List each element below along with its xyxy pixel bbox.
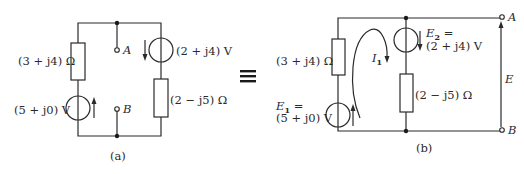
terminal-a — [500, 15, 505, 20]
caption-a: (a) — [110, 149, 126, 163]
loop-current-label: I1 — [371, 51, 382, 67]
right-impedance-label: (2 − j5) Ω — [415, 88, 472, 102]
resistor-right-a — [154, 79, 168, 117]
left-impedance-label: (3 + j4) Ω — [276, 54, 333, 68]
caption-b: (b) — [416, 141, 432, 155]
voltage-source-e2 — [394, 28, 418, 52]
junction-dot — [115, 21, 119, 25]
output-voltage-label: E — [504, 72, 514, 86]
left-impedance-label: (3 + j4) Ω — [18, 54, 75, 68]
arrow-down-icon — [143, 40, 148, 61]
output-voltage-arrow-icon — [499, 21, 504, 127]
terminal-a — [115, 48, 120, 53]
junction-dot — [115, 134, 119, 138]
resistor-left-b — [332, 39, 345, 75]
loop-current-arrow-icon — [353, 29, 390, 118]
equivalence-symbol — [240, 70, 256, 82]
bottom-wire-a — [78, 117, 161, 136]
top-wire-a — [78, 23, 161, 43]
junction-dot — [404, 129, 408, 133]
terminal-a-label: A — [122, 43, 131, 57]
right-impedance-label: (2 − j5) Ω — [170, 93, 227, 107]
right-source-label: (2 + j4) V — [176, 44, 233, 58]
terminal-b — [500, 128, 505, 133]
terminal-b-label: B — [122, 102, 131, 116]
left-source-label: (5 + j0) V — [14, 103, 71, 117]
terminal-b — [115, 107, 120, 112]
e2-value: (2 + j4) V — [426, 39, 483, 53]
figure-a: (3 + j4) Ω (5 + j0) V (2 + j4) V (2 − j5… — [14, 21, 233, 163]
resistor-right-b — [400, 74, 413, 112]
arrow-up-icon — [351, 104, 356, 126]
figure-b: (3 + j4) Ω E1 = (5 + j0) V E2 = (2 + j4)… — [275, 10, 516, 155]
terminal-a-label: A — [507, 10, 516, 24]
e1-value: (5 + j0) V — [276, 111, 333, 125]
junction-dot — [404, 16, 408, 20]
bottom-wire-b — [338, 127, 500, 131]
voltage-source-right-a — [149, 38, 173, 62]
circuit-diagram: (3 + j4) Ω (5 + j0) V (2 + j4) V (2 − j5… — [0, 0, 524, 174]
terminal-b-label: B — [507, 123, 516, 137]
arrow-up-icon — [92, 97, 97, 118]
